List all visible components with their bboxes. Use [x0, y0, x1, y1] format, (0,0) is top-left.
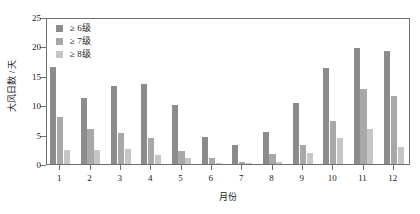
bar	[216, 163, 222, 164]
legend-swatch-icon	[56, 51, 63, 58]
bar	[118, 133, 124, 164]
bar	[178, 151, 184, 164]
y-axis-tick-label: 0	[11, 161, 41, 170]
bar	[276, 162, 282, 164]
bar	[246, 163, 252, 164]
bar	[202, 137, 208, 164]
bar	[367, 129, 373, 164]
bar	[269, 154, 275, 164]
y-axis-tick-label: 15	[11, 73, 41, 82]
x-axis-tick	[363, 165, 364, 170]
x-axis-tick	[120, 165, 121, 170]
x-axis-tick-label: 4	[138, 173, 162, 183]
bar	[94, 150, 100, 164]
bar	[57, 117, 63, 164]
x-axis-tick-label: 6	[199, 173, 223, 183]
bar	[330, 121, 336, 164]
x-axis-tick	[241, 165, 242, 170]
bar	[293, 103, 299, 164]
bar	[391, 96, 397, 164]
bar	[384, 51, 390, 164]
x-axis-title: 月份	[46, 190, 410, 203]
bar	[300, 145, 306, 164]
y-axis-title: 大风日数 / 天	[0, 0, 22, 170]
bar	[148, 138, 154, 164]
legend-item: ≥ 7级	[56, 35, 91, 48]
x-axis-tick	[332, 165, 333, 170]
bar	[209, 158, 215, 164]
bar	[232, 145, 238, 164]
x-axis-tick	[211, 165, 212, 170]
x-axis-tick-label: 8	[260, 173, 284, 183]
x-axis-tick	[150, 165, 151, 170]
bar	[111, 86, 117, 164]
legend-item-label: ≥ 7级	[70, 37, 91, 46]
bar	[360, 89, 366, 164]
legend-item: ≥ 8级	[56, 48, 91, 61]
x-axis-tick-label: 2	[78, 173, 102, 183]
x-axis-tick	[302, 165, 303, 170]
x-axis-tick	[272, 165, 273, 170]
y-axis-tick-label: 10	[11, 102, 41, 111]
bar	[307, 153, 313, 164]
x-axis-tick	[181, 165, 182, 170]
bar	[125, 149, 131, 164]
legend-item: ≥ 6级	[56, 22, 91, 35]
bar	[81, 98, 87, 164]
x-axis-tick-label: 12	[381, 173, 405, 183]
legend-swatch-icon	[56, 38, 63, 45]
bar	[323, 68, 329, 164]
chart-legend: ≥ 6级≥ 7级≥ 8级	[56, 22, 91, 61]
x-axis-tick-label: 11	[351, 173, 375, 183]
bar-chart-figure: 大风日数 / 天 0510152025 123456789101112 月份 ≥…	[0, 0, 420, 214]
x-axis-tick-label: 1	[47, 173, 71, 183]
y-axis-tick-label: 25	[11, 14, 41, 23]
x-axis-tick	[59, 165, 60, 170]
bar	[141, 84, 147, 164]
bar	[64, 150, 70, 164]
bar	[50, 67, 56, 164]
legend-swatch-icon	[56, 25, 63, 32]
bar	[172, 105, 178, 164]
y-axis-tick-label: 5	[11, 132, 41, 141]
x-axis-tick-label: 3	[108, 173, 132, 183]
plot-area	[46, 18, 410, 165]
x-axis-tick-label: 7	[229, 173, 253, 183]
bar	[354, 48, 360, 164]
x-axis-tick-label: 5	[169, 173, 193, 183]
bar	[155, 155, 161, 164]
bar	[398, 147, 404, 164]
bar	[337, 138, 343, 164]
x-axis-tick-label: 10	[320, 173, 344, 183]
bar	[185, 158, 191, 164]
x-axis-tick	[393, 165, 394, 170]
bar	[239, 162, 245, 164]
bar	[263, 132, 269, 164]
legend-item-label: ≥ 6级	[70, 24, 91, 33]
bar	[87, 129, 93, 164]
x-axis-tick	[90, 165, 91, 170]
x-axis-tick-label: 9	[290, 173, 314, 183]
y-axis-tick-label: 20	[11, 43, 41, 52]
legend-item-label: ≥ 8级	[70, 50, 91, 59]
